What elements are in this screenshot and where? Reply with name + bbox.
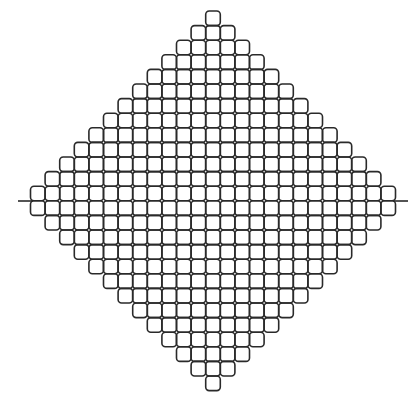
lattice-cell [133,259,148,274]
lattice-cell [191,288,206,303]
lattice-cell [235,69,250,84]
lattice-cell [308,230,323,245]
lattice-cell [264,157,279,172]
lattice-cell [235,201,250,216]
lattice-cell [31,201,46,216]
lattice-cell [74,172,89,187]
lattice-cell [235,245,250,260]
lattice-cell [308,186,323,201]
lattice-cell [250,69,265,84]
lattice-cell [118,230,133,245]
lattice-cell [264,245,279,260]
lattice-cell [250,274,265,289]
lattice-cell [191,40,206,55]
lattice-cells [31,11,396,391]
lattice-cell [235,186,250,201]
lattice-cell [206,113,221,128]
lattice-cell [147,142,162,157]
lattice-cell [235,259,250,274]
lattice-cell [147,157,162,172]
lattice-cell [352,201,367,216]
lattice-cell [206,332,221,347]
lattice-cell [104,128,119,143]
lattice-cell [308,215,323,230]
lattice-cell [162,157,177,172]
lattice-cell [264,69,279,84]
lattice-cell [104,172,119,187]
lattice-cell [308,157,323,172]
lattice-cell [177,303,192,318]
lattice-cell [118,215,133,230]
lattice-cell [220,303,235,318]
lattice-cell [191,142,206,157]
lattice-cell [279,215,294,230]
lattice-cell [293,215,308,230]
lattice-cell [162,259,177,274]
lattice-cell [308,172,323,187]
lattice-cell [206,361,221,376]
lattice-cell [381,186,396,201]
lattice-cell [191,332,206,347]
lattice-cell [264,128,279,143]
lattice-cell [279,201,294,216]
lattice-cell [133,230,148,245]
lattice-cell [177,245,192,260]
lattice-cell [177,332,192,347]
lattice-cell [279,142,294,157]
lattice-cell [366,215,381,230]
lattice-cell [177,142,192,157]
lattice-cell [147,245,162,260]
lattice-cell [191,259,206,274]
lattice-cell [250,303,265,318]
lattice-cell [250,318,265,333]
lattice-cell [323,157,338,172]
lattice-cell [279,288,294,303]
lattice-cell [264,201,279,216]
lattice-cell [89,142,104,157]
lattice-cell [279,230,294,245]
lattice-cell [162,201,177,216]
lattice-cell [220,215,235,230]
lattice-cell [264,274,279,289]
lattice-cell [235,288,250,303]
lattice-cell [60,157,75,172]
lattice-cell [264,215,279,230]
lattice-cell [162,55,177,70]
lattice-cell [352,186,367,201]
lattice-cell [323,201,338,216]
lattice-cell [366,201,381,216]
lattice-cell [118,113,133,128]
lattice-cell [45,172,60,187]
lattice-cell [293,186,308,201]
diamond-lattice-figure [0,0,420,410]
lattice-cell [162,128,177,143]
lattice-cell [104,259,119,274]
lattice-cell [352,157,367,172]
lattice-cell [118,128,133,143]
lattice-cell [162,215,177,230]
lattice-cell [250,113,265,128]
lattice-cell [177,69,192,84]
lattice-cell [308,245,323,260]
lattice-cell [147,186,162,201]
lattice-cell [118,288,133,303]
lattice-cell [104,215,119,230]
lattice-cell [104,201,119,216]
lattice-cell [191,201,206,216]
lattice-cell [352,230,367,245]
lattice-cell [337,215,352,230]
lattice-cell [293,259,308,274]
lattice-cell [133,99,148,114]
lattice-cell [206,128,221,143]
lattice-cell [74,186,89,201]
lattice-cell [293,113,308,128]
lattice-cell [250,288,265,303]
lattice-cell [177,55,192,70]
lattice-cell [104,274,119,289]
lattice-cell [366,186,381,201]
lattice-cell [74,245,89,260]
lattice-cell [250,215,265,230]
lattice-cell [250,245,265,260]
lattice-cell [177,186,192,201]
lattice-cell [279,274,294,289]
